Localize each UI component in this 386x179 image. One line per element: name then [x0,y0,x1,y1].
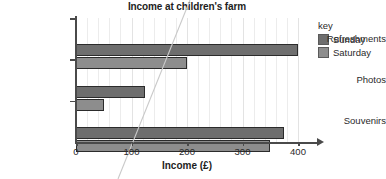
gridline [209,18,210,142]
gridline [243,18,244,142]
x-axis-line [75,142,318,144]
gridline [87,18,88,142]
gridline [220,18,221,142]
x-axis-tick-label: 100 [112,146,152,157]
bar-refreshments-saturday [76,57,187,69]
gridline [254,18,255,142]
chart-title: Income at children's farm [76,1,298,12]
gridline [98,18,99,142]
bar-photos-sunday [76,86,145,98]
x-axis-tick-label: 300 [223,146,263,157]
gridline [276,18,277,142]
gridline [198,18,199,142]
gridline [132,18,133,142]
gridline [120,18,121,142]
legend-title: key [318,20,371,31]
x-axis-tick-label: 400 [278,146,318,157]
x-axis-arrow-icon [317,138,324,146]
y-axis-tick [70,18,75,20]
bar-refreshments-sunday [76,44,298,56]
y-axis-line [75,16,77,144]
gridline [298,18,299,142]
category-label-souvenirs: Souvenirs [314,115,386,126]
gridline [287,18,288,142]
gridline [154,18,155,142]
gridline [187,18,188,142]
gridline [265,18,266,142]
category-label-photos: Photos [314,74,386,85]
bar-chart-figure: Income at children's farm Income (£) key… [0,0,386,179]
x-axis-tick-label: 0 [56,146,96,157]
bar-souvenirs-sunday [76,127,284,139]
y-axis-tick [70,59,75,61]
gridline [165,18,166,142]
y-axis-tick [70,101,75,103]
gridline [109,18,110,142]
gridline [231,18,232,142]
bar-photos-saturday [76,99,104,111]
plot-area [76,18,298,142]
legend-swatch-icon-saturday [318,47,329,58]
gridline [176,18,177,142]
category-label-refreshments: Refreshments [314,33,386,44]
gridline [143,18,144,142]
legend-label-saturday: Saturday [333,47,371,58]
legend-item-saturday: Saturday [318,47,371,58]
x-axis-title: Income (£) [76,160,298,171]
x-axis-tick-label: 200 [167,146,207,157]
